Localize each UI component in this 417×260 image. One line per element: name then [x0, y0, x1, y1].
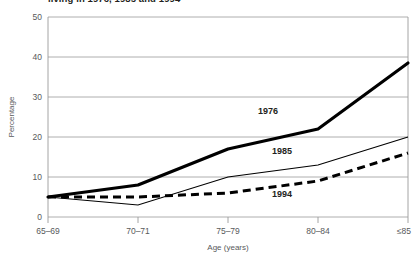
- series-annotation-1985: 1985: [272, 146, 292, 156]
- chart-figure: living in 1976, 1985 and 1994 50 4: [0, 0, 417, 260]
- y-tick-label-0: 0: [37, 212, 42, 222]
- x-axis-title: Age (years): [207, 243, 249, 252]
- x-tick-label-75-79: 75–79: [216, 226, 240, 236]
- series-annotation-1976: 1976: [258, 106, 278, 116]
- x-tick-labels: 65–69 70–71 75–79 80–84 ≤85: [36, 226, 411, 236]
- y-tick-label-10: 10: [33, 172, 43, 182]
- x-tick-label-85-plus: ≤85: [397, 226, 411, 236]
- x-tick-label-65-69: 65–69: [36, 226, 60, 236]
- y-tick-label-30: 30: [33, 92, 43, 102]
- x-tick-marks: [48, 217, 408, 223]
- y-tick-label-50: 50: [33, 12, 43, 22]
- series-annotation-1994: 1994: [272, 189, 292, 199]
- y-axis-title: Percentage: [7, 96, 16, 137]
- x-tick-label-70-71: 70–71: [126, 226, 150, 236]
- series-line-1985: [48, 137, 408, 205]
- axis-lines: [48, 17, 408, 217]
- y-tick-labels: 50 40 30 20 10 0: [33, 12, 43, 222]
- x-tick-label-80-84: 80–84: [306, 226, 330, 236]
- gridlines: [48, 17, 408, 217]
- y-tick-label-20: 20: [33, 132, 43, 142]
- y-tick-label-40: 40: [33, 52, 43, 62]
- chart-canvas: 50 40 30 20 10 0 65–69 70–71 75–79 80–84…: [0, 0, 417, 260]
